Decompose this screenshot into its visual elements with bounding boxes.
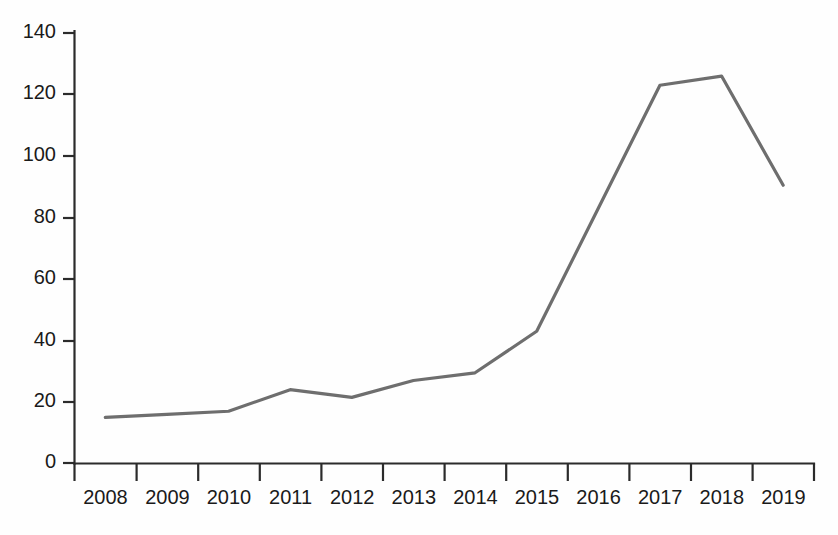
x-tick-labels: 2008 2009 2010 2011 2012 2013 2014 2015 … [83, 486, 805, 508]
y-tick-label-40: 40 [34, 328, 56, 350]
y-tick-label-120: 120 [23, 81, 56, 103]
y-tick-marks [63, 33, 75, 463]
chart-axes [75, 31, 815, 464]
x-tick-label-2017: 2017 [638, 486, 683, 508]
x-tick-label-2013: 2013 [392, 486, 437, 508]
y-tick-label-0: 0 [45, 450, 56, 472]
y-tick-label-140: 140 [23, 20, 56, 42]
x-tick-label-2010: 2010 [207, 486, 252, 508]
x-tick-label-2011: 2011 [269, 486, 312, 508]
x-tick-label-2015: 2015 [515, 486, 560, 508]
chart-canvas: 140 120 100 80 60 40 20 0 200 [0, 0, 838, 535]
y-tick-label-100: 100 [23, 143, 56, 165]
x-tick-label-2019: 2019 [761, 486, 806, 508]
y-tick-labels: 140 120 100 80 60 40 20 0 [23, 20, 56, 472]
y-tick-label-60: 60 [34, 266, 56, 288]
x-tick-label-2018: 2018 [700, 486, 745, 508]
x-tick-label-2016: 2016 [576, 486, 621, 508]
y-tick-label-20: 20 [34, 389, 56, 411]
x-tick-label-2012: 2012 [330, 486, 375, 508]
data-series-line [105, 76, 783, 417]
x-tick-label-2008: 2008 [83, 486, 128, 508]
x-tick-marks [75, 464, 815, 482]
line-chart: 140 120 100 80 60 40 20 0 200 [0, 0, 838, 535]
x-tick-label-2009: 2009 [145, 486, 190, 508]
x-tick-label-2014: 2014 [453, 486, 498, 508]
y-tick-label-80: 80 [34, 205, 56, 227]
